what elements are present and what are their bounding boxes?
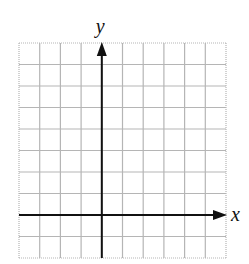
y-axis-label: y [94, 15, 105, 38]
y-axis-arrow-icon [97, 42, 107, 56]
coordinate-plane: x y [0, 0, 249, 264]
grid-lines [19, 43, 226, 258]
x-axis-label: x [230, 203, 240, 225]
x-axis-arrow-icon [213, 210, 227, 220]
